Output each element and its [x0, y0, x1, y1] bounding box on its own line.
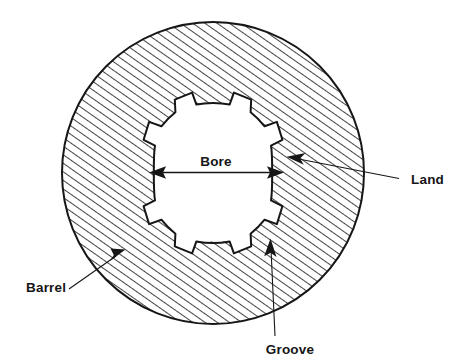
land-label: Land [411, 172, 444, 187]
bore-label: Bore [200, 154, 232, 169]
groove-label: Groove [266, 342, 315, 357]
barrel-wall-hatching [0, 0, 468, 363]
barrel-diagram-svg: Bore Land Groove Barrel [0, 0, 468, 363]
barrel-label: Barrel [26, 280, 66, 295]
barrel-cross-section-figure: Bore Land Groove Barrel [0, 0, 468, 363]
